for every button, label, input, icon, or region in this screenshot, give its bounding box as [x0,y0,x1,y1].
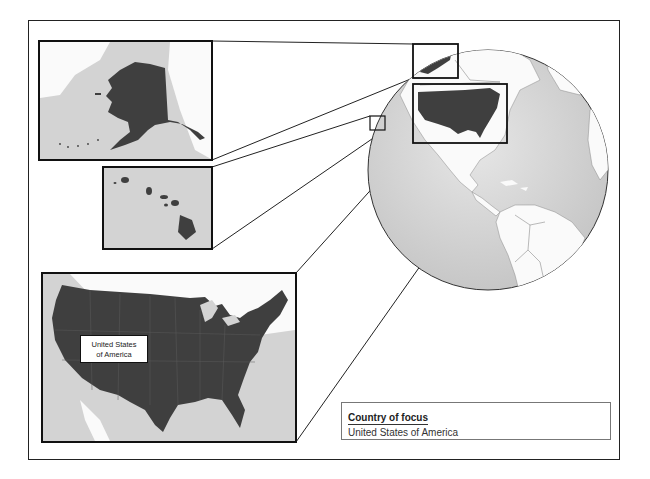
legend-box: Country of focus United States of Americ… [341,402,611,440]
country-label: United States of America [80,335,148,363]
country-label-line2: of America [81,350,147,360]
inset-hawaii [103,167,212,249]
country-label-line1: United States [81,340,147,350]
legend-title: Country of focus [348,412,428,425]
inset-alaska [39,41,212,160]
globe [368,44,612,310]
legend-value: United States of America [348,427,604,439]
